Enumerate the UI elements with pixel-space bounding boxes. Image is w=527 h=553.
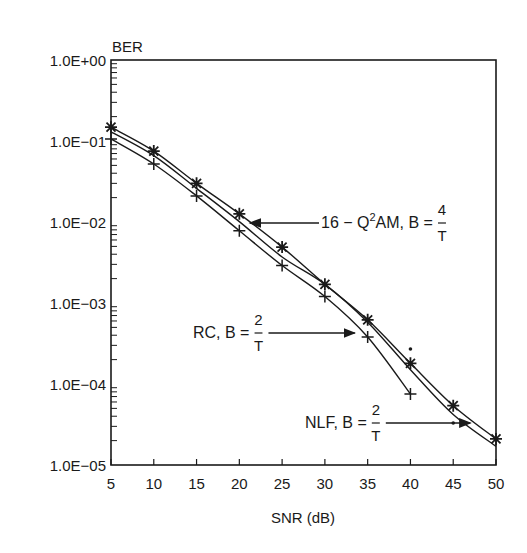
series-line-1 bbox=[111, 132, 496, 447]
fraction-denominator: T bbox=[371, 427, 380, 444]
fraction-numerator: 2 bbox=[254, 311, 262, 328]
x-tick-label: 10 bbox=[145, 475, 162, 492]
y-axis-title: BER bbox=[112, 38, 143, 55]
x-tick-label: 40 bbox=[402, 475, 419, 492]
fraction-denominator: T bbox=[437, 227, 446, 244]
annotation-label: NLF, B = bbox=[305, 414, 367, 431]
y-tick-label: 1.0E+00 bbox=[50, 52, 106, 69]
series-lines bbox=[111, 127, 496, 446]
x-tick-label: 5 bbox=[107, 475, 115, 492]
annotation-q2am: 16 − Q2AM, B =4T bbox=[250, 201, 447, 244]
plus-marker bbox=[148, 158, 160, 170]
asterisk-marker bbox=[447, 400, 459, 412]
annotation-label: RC, B = bbox=[193, 324, 249, 341]
ber-vs-snr-chart: 51015202530354045501.0E+001.0E−011.0E−02… bbox=[0, 0, 527, 553]
y-tick-label: 1.0E−01 bbox=[50, 133, 106, 150]
series-line-2 bbox=[111, 139, 410, 394]
x-tick-label: 50 bbox=[488, 475, 505, 492]
asterisk-marker bbox=[148, 145, 160, 157]
annotations: 16 − Q2AM, B =4TRC, B =2TNLF, B =2T bbox=[193, 201, 470, 444]
x-tick-label: 15 bbox=[188, 475, 205, 492]
asterisk-marker bbox=[191, 177, 203, 189]
fraction-denominator: T bbox=[254, 337, 263, 354]
plot-border bbox=[111, 60, 496, 465]
asterisk-marker bbox=[362, 314, 374, 326]
x-tick-label: 30 bbox=[317, 475, 334, 492]
asterisk-marker bbox=[319, 278, 331, 290]
annotation-label: 16 − Q2AM, B = bbox=[321, 211, 433, 231]
asterisk-marker bbox=[404, 357, 416, 369]
x-tick-label: 20 bbox=[231, 475, 248, 492]
dot-marker bbox=[409, 347, 413, 351]
fraction-numerator: 4 bbox=[438, 201, 446, 218]
y-tick-label: 1.0E−03 bbox=[50, 295, 106, 312]
tick-labels: 51015202530354045501.0E+001.0E−011.0E−02… bbox=[50, 52, 505, 492]
plot-frame bbox=[111, 60, 496, 465]
axis-ticks bbox=[111, 64, 496, 465]
y-tick-label: 1.0E−04 bbox=[50, 376, 106, 393]
asterisk-marker bbox=[233, 208, 245, 220]
x-axis-title: SNR (dB) bbox=[271, 509, 335, 526]
y-tick-label: 1.0E−05 bbox=[50, 457, 106, 474]
fraction-numerator: 2 bbox=[372, 401, 380, 418]
annotation-rc: RC, B =2T bbox=[193, 311, 355, 354]
asterisk-marker bbox=[490, 433, 502, 445]
x-tick-label: 45 bbox=[445, 475, 462, 492]
x-tick-label: 25 bbox=[274, 475, 291, 492]
asterisk-marker bbox=[276, 241, 288, 253]
plus-marker bbox=[404, 388, 416, 400]
plus-marker bbox=[276, 260, 288, 272]
x-tick-label: 35 bbox=[359, 475, 376, 492]
asterisk-marker bbox=[105, 121, 117, 133]
y-tick-label: 1.0E−02 bbox=[50, 214, 106, 231]
